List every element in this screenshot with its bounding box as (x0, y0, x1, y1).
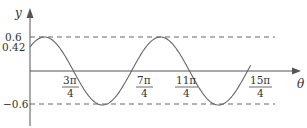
y-axis-label: y (14, 6, 22, 20)
svg-text:3π: 3π (63, 74, 77, 86)
x-tick-11pi-4: 11π 4 (175, 74, 198, 99)
y-tick-0.42: 0.42 (2, 41, 25, 53)
x-tick-3pi-4: 3π 4 (62, 74, 79, 99)
svg-text:4: 4 (67, 87, 74, 99)
y-axis-arrow-icon (27, 8, 34, 18)
chart-canvas: y θ 0.6 0.42 −0.6 3π 4 7π 4 11π 4 15π 4 (0, 0, 307, 128)
svg-text:4: 4 (257, 87, 264, 99)
y-tick-neg-0.6: −0.6 (3, 98, 29, 110)
svg-text:4: 4 (183, 87, 190, 99)
svg-text:15π: 15π (250, 74, 270, 86)
svg-text:7π: 7π (137, 74, 151, 86)
x-tick-7pi-4: 7π 4 (136, 74, 153, 99)
svg-text:11π: 11π (176, 74, 196, 86)
svg-text:4: 4 (141, 87, 148, 99)
x-axis-label: θ (297, 77, 305, 91)
x-axis-arrow-icon (292, 68, 301, 75)
x-tick-15pi-4: 15π 4 (249, 74, 272, 99)
